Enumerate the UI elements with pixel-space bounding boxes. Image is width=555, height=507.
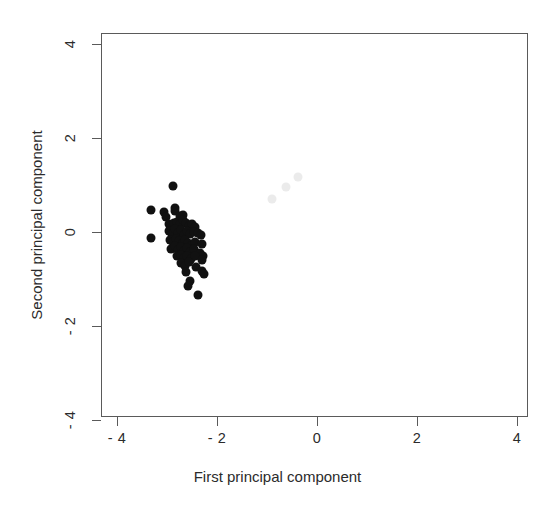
y-axis-tick-label: - 2 <box>62 317 78 335</box>
y-axis-tick <box>92 138 101 139</box>
x-axis-tick <box>317 417 318 426</box>
plot-area-frame <box>101 33 528 417</box>
x-axis-tick-label: - 2 <box>208 430 226 446</box>
y-axis-title: Second principal component <box>28 130 45 319</box>
y-axis-tick-label: 4 <box>62 40 78 49</box>
scatter-plot-figure: - 4- 2024- 4- 2024 First principal compo… <box>0 0 555 507</box>
x-axis-tick-label: 2 <box>413 430 422 446</box>
y-axis-tick-label: 0 <box>62 228 78 237</box>
y-axis-tick <box>92 420 101 421</box>
x-axis-title: First principal component <box>0 468 555 485</box>
y-axis-tick <box>92 44 101 45</box>
x-axis-tick <box>217 417 218 426</box>
y-axis-tick <box>92 232 101 233</box>
x-axis-tick <box>117 417 118 426</box>
y-axis-tick <box>92 326 101 327</box>
y-axis-tick-label: - 4 <box>62 411 78 429</box>
x-axis-tick <box>417 417 418 426</box>
x-axis-tick-label: 4 <box>513 430 522 446</box>
x-axis-tick-label: 0 <box>313 430 322 446</box>
x-axis-tick <box>517 417 518 426</box>
x-axis-tick-label: - 4 <box>108 430 126 446</box>
y-axis-tick-label: 2 <box>62 134 78 143</box>
